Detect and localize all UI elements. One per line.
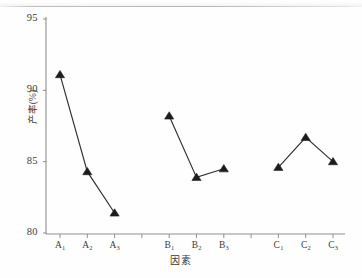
x-tick-subscript: 2 (307, 244, 310, 251)
x-axis-tick-label-a1: A1 (46, 240, 74, 250)
chart-figure: 95 90 85 80 A1A2A3B1B2B3C1C2C3 产率(%) 因素 (0, 0, 362, 278)
axis-lines (46, 17, 345, 234)
x-tick-subscript: 2 (198, 244, 201, 251)
x-axis-tick-label-c3: C3 (319, 240, 347, 250)
x-axis-tick-label-b3: B3 (210, 240, 238, 250)
x-tick-letter: A (110, 240, 117, 250)
data-point-marker-a3 (110, 209, 119, 216)
plot-area: 95 90 85 80 A1A2A3B1B2B3C1C2C3 产率(%) 因素 (0, 0, 362, 278)
series-line-a (60, 75, 115, 213)
data-point-marker-b3 (219, 165, 228, 172)
x-tick-subscript: 1 (62, 244, 65, 251)
x-tick-subscript: 2 (89, 244, 92, 251)
y-axis-tick-label-95: 95 (12, 12, 38, 23)
plot-canvas (0, 0, 362, 278)
x-axis-tick-label-a3: A3 (101, 240, 129, 250)
x-axis-tick-label-a2: A2 (73, 240, 101, 250)
x-axis-tick-label-c2: C2 (292, 240, 320, 250)
data-point-marker-c2 (301, 133, 310, 140)
y-axis-tick-label-85: 85 (12, 155, 38, 166)
x-tick-letter: B (164, 240, 170, 250)
x-axis-title: 因素 (0, 252, 362, 267)
x-tick-subscript: 3 (335, 244, 338, 251)
x-tick-subscript: 1 (171, 244, 174, 251)
x-tick-letter: A (55, 240, 62, 250)
x-axis-tick-label-c1: C1 (264, 240, 292, 250)
x-tick-letter: C (328, 240, 334, 250)
x-tick-subscript: 1 (280, 244, 283, 251)
data-point-marker-b1 (165, 112, 174, 119)
series-line-c (278, 137, 333, 167)
x-axis-tick-label-b2: B2 (183, 240, 211, 250)
data-point-marker-a2 (83, 167, 92, 174)
series-line-b (169, 116, 224, 177)
x-tick-letter: B (219, 240, 225, 250)
y-axis-tick-label-80: 80 (12, 226, 38, 237)
x-axis-tick-label-b1: B1 (155, 240, 183, 250)
y-axis-title: 产率(%) (25, 77, 39, 137)
x-tick-letter: C (274, 240, 280, 250)
x-tick-subscript: 3 (117, 244, 120, 251)
x-axis-ticks (60, 234, 333, 238)
data-point-marker-a1 (55, 70, 64, 77)
x-tick-subscript: 3 (226, 244, 229, 251)
data-series-group (55, 70, 337, 216)
